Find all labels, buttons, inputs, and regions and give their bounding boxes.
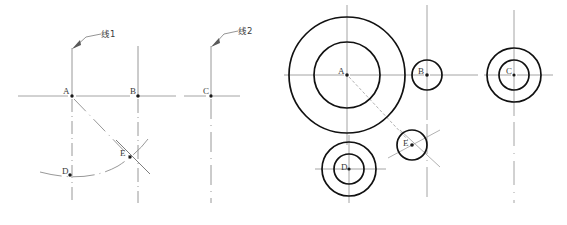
label-point-A-left: A <box>63 86 70 96</box>
label-point-D-left: D <box>62 166 69 176</box>
tick-E-a <box>388 130 440 158</box>
technical-drawing-figure: A B C D E 线1 线2 <box>0 0 567 225</box>
drawing-canvas: A B C D E 线1 线2 <box>0 0 567 225</box>
annotation-line2: 线2 <box>238 26 252 36</box>
leader-line1-shelf <box>86 34 101 37</box>
leader-line2-shelf <box>224 31 238 34</box>
point-dot-A <box>70 94 73 97</box>
label-circle-A: A <box>338 66 345 76</box>
center-dot-A <box>345 73 349 77</box>
center-dot-C <box>512 73 515 76</box>
point-dot-D <box>68 173 71 176</box>
point-dot-E <box>128 155 131 158</box>
label-point-B-left: B <box>130 86 136 96</box>
point-dot-B <box>136 94 139 97</box>
label-circle-B: B <box>418 66 424 76</box>
construction-arc-D-E <box>40 139 148 177</box>
center-dot-E <box>410 143 414 147</box>
center-dot-D <box>347 167 350 170</box>
label-circle-D: D <box>341 162 348 172</box>
leader-line1-arrowhead <box>72 40 81 49</box>
leader-line2 <box>211 31 238 47</box>
right-panel: A B C D E <box>284 5 553 203</box>
label-circle-C: C <box>506 66 512 76</box>
leader-line2-arrowhead <box>211 38 220 47</box>
center-dot-B <box>425 73 429 77</box>
construction-ticks-E-right <box>388 130 440 167</box>
label-circle-E: E <box>403 138 409 148</box>
annotation-line1: 线1 <box>101 29 115 39</box>
label-point-C-left: C <box>203 86 209 96</box>
point-dot-C <box>209 94 212 97</box>
left-panel: A B C D E 线1 线2 <box>18 26 252 203</box>
leader-line1 <box>72 34 101 49</box>
label-point-E-left: E <box>120 148 126 158</box>
